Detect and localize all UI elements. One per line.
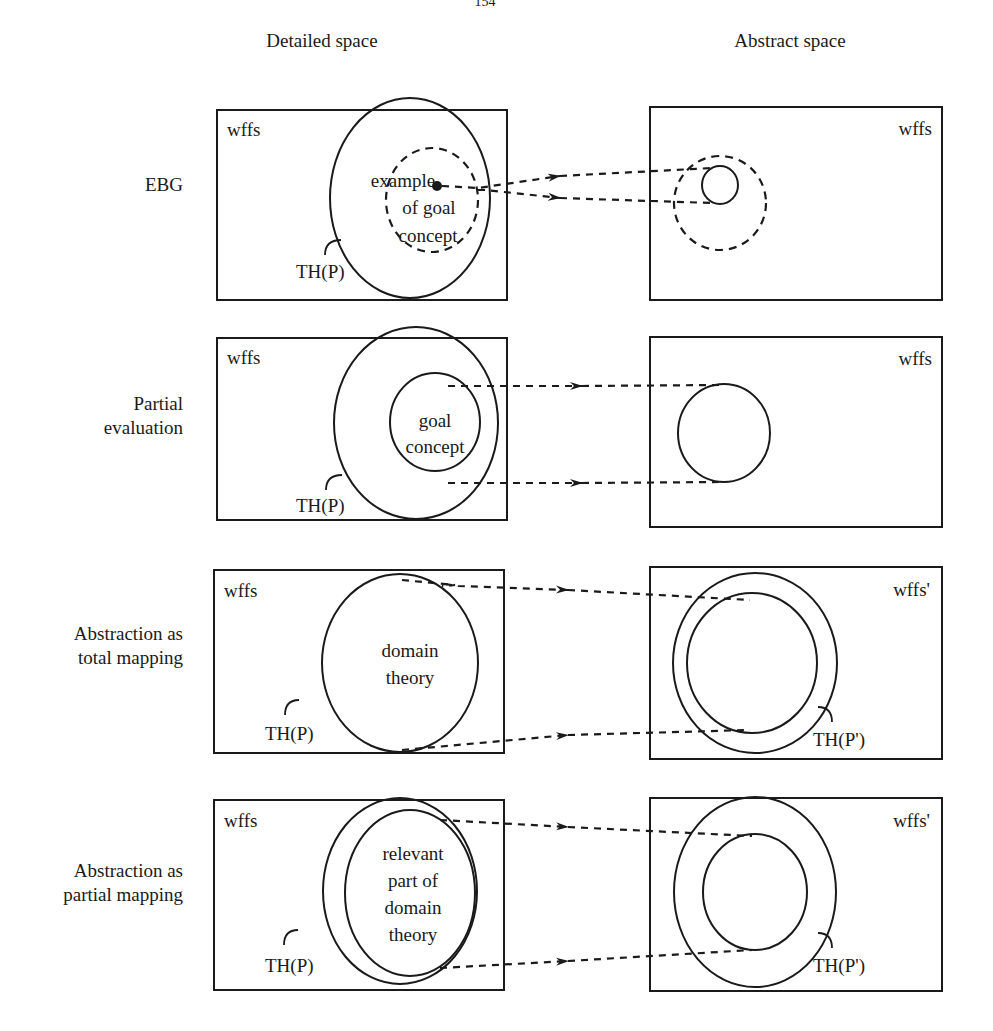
wffs-label: wffs: [899, 348, 932, 369]
column-header-detailed: Detailed space: [266, 30, 377, 51]
row-label-abstraction-partial: partial mapping: [63, 884, 183, 905]
wffs-label: wffs: [227, 347, 260, 368]
mapping-arrows-abstraction-partial: [440, 820, 752, 968]
row-label-partial-evaluation: evaluation: [104, 417, 184, 438]
theory-label: TH(P): [265, 723, 314, 745]
theory-label: TH(P): [265, 955, 314, 977]
wffs-box: [214, 800, 504, 990]
detailed-panel-ebg: wffs TH(P) example of goal concept: [217, 98, 507, 300]
abstract-panel-abstraction-partial: wffs' TH(P'): [650, 797, 942, 991]
theory-hook: [284, 930, 298, 945]
row-label-ebg: EBG: [145, 174, 183, 195]
row-abstraction-total: Abstraction as total mapping wffs TH(P) …: [74, 567, 942, 759]
abstract-theory-outer-circle: [674, 797, 836, 987]
domain-theory-circle: [323, 798, 477, 984]
row-label-abstraction-total: total mapping: [78, 647, 184, 668]
row-ebg: EBG wffs TH(P) example of goal concept w…: [145, 98, 942, 300]
row-label-abstraction-partial: Abstraction as: [74, 860, 183, 881]
domain-theory-circle: [322, 574, 478, 752]
wffs-label: wffs: [899, 118, 932, 139]
wffs-box: [217, 338, 507, 520]
theory-hook: [326, 475, 342, 490]
theory-circle: [334, 327, 498, 519]
inner-text-line: theory: [386, 667, 435, 688]
detailed-panel-partial-evaluation: wffs TH(P) goal concept: [217, 327, 507, 520]
mapping-arrow-tail: [568, 590, 750, 600]
row-abstraction-partial: Abstraction as partial mapping wffs TH(P…: [63, 797, 942, 991]
wffs-label: wffs': [893, 810, 930, 831]
detailed-panel-abstraction-partial: wffs TH(P) relevant part of domain theor…: [214, 798, 504, 990]
mapping-arrow: [402, 735, 568, 750]
mapping-arrow-tail: [568, 730, 750, 735]
mapping-arrow: [445, 584, 568, 590]
mapping-arrow-tail: [568, 827, 752, 836]
theory-label: TH(P'): [813, 729, 865, 751]
row-label-abstraction-total: Abstraction as: [74, 623, 183, 644]
inner-text-line: concept: [405, 436, 465, 457]
wffs-label: wffs: [224, 580, 257, 601]
column-header-abstract: Abstract space: [734, 30, 845, 51]
detailed-panel-abstraction-total: wffs TH(P) domain theory: [214, 570, 504, 753]
inner-text-line: domain: [385, 897, 442, 918]
diagram-canvas: 154 Detailed space Abstract space EBG wf…: [0, 0, 993, 1031]
mapping-arrow-tail: [568, 950, 752, 961]
theory-label: TH(P): [296, 261, 345, 283]
inner-text-line: part of: [388, 870, 439, 891]
wffs-label: wffs: [227, 119, 260, 140]
page-number: 154: [475, 0, 496, 9]
inner-text-line: relevant: [382, 843, 444, 864]
mapping-arrow: [442, 176, 560, 188]
theory-hook: [818, 707, 832, 722]
inner-text-line: of goal: [402, 197, 455, 218]
abstract-theory-inner-circle: [687, 593, 817, 733]
mapping-arrow-tail: [560, 198, 712, 203]
theory-hook: [285, 700, 299, 715]
abstract-theory-outer-circle: [673, 573, 837, 753]
inner-text-line: example: [371, 170, 435, 191]
abstract-panel-partial-evaluation: wffs: [650, 337, 942, 527]
mapping-arrows-abstraction-total: [402, 580, 750, 750]
theory-label: TH(P): [296, 495, 345, 517]
abstract-theory-inner-circle: [703, 834, 807, 950]
abstract-panel-abstraction-total: wffs' TH(P'): [650, 567, 942, 759]
mapping-arrow-tail: [582, 385, 722, 386]
inner-text-line: goal: [419, 410, 452, 431]
row-label-partial-evaluation: Partial: [133, 393, 183, 414]
wffs-label: wffs: [224, 810, 257, 831]
inner-text-line: concept: [398, 225, 458, 246]
theory-label: TH(P'): [813, 955, 865, 977]
inner-text-line: theory: [389, 924, 438, 945]
row-partial-evaluation: Partial evaluation wffs TH(P) goal conce…: [104, 327, 942, 527]
abstracted-point-circle: [702, 166, 738, 204]
wffs-label: wffs': [893, 579, 930, 600]
goal-concept-image-circle: [678, 384, 770, 482]
mapping-arrow-tail: [582, 482, 722, 483]
wffs-box: [214, 570, 504, 753]
mapping-arrows-ebg: [442, 168, 712, 203]
relevant-part-circle: [345, 810, 475, 976]
inner-text-line: domain: [382, 640, 439, 661]
